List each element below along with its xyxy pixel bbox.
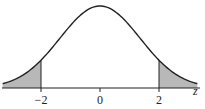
right-tail-shaded-region (159, 60, 197, 88)
x-tick-label: −2 (35, 93, 48, 107)
x-axis-label: z (192, 84, 198, 98)
x-tick-label: 2 (156, 93, 162, 107)
x-axis-ticks: −202 (35, 88, 162, 107)
left-tail-shaded-region (3, 60, 41, 88)
normal-distribution-chart: −202 z (0, 0, 205, 109)
x-tick-label: 0 (97, 93, 103, 107)
